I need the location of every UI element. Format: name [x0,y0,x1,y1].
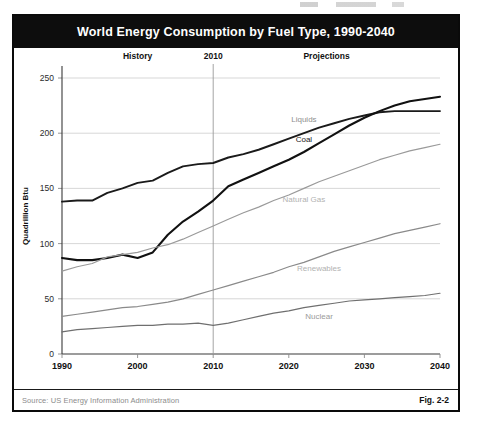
x-tick-label: 2030 [354,361,374,371]
series-label-renewables: Renewables [297,264,341,273]
y-tick-label: 150 [40,183,54,193]
figure-number: Fig. 2-2 [419,395,449,405]
y-axis-title: Quadrillion Btu [21,187,30,245]
x-tick-label: 2020 [279,361,299,371]
figure-title-bar: World Energy Consumption by Fuel Type, 1… [14,16,458,48]
series-line-renewables [62,224,440,317]
figure-root: World Energy Consumption by Fuel Type, 1… [0,0,478,428]
series-label-liquids: Liquids [291,115,316,124]
chart-plot-area: 050100150200250199020002010202020302040H… [14,48,458,382]
x-tick-label: 2010 [203,361,223,371]
series-label-natural-gas: Natural Gas [283,195,326,204]
y-tick-label: 100 [40,239,54,249]
series-line-coal [62,97,440,260]
line-chart: 050100150200250199020002010202020302040H… [14,48,458,382]
figure-footer: Source: US Energy Information Administra… [14,389,458,410]
series-label-nuclear: Nuclear [305,312,333,321]
x-tick-label: 2040 [430,361,450,371]
era-label-history: History [123,51,153,61]
source-note: Source: US Energy Information Administra… [22,396,179,405]
figure-frame: World Energy Consumption by Fuel Type, 1… [12,14,460,412]
y-tick-label: 250 [40,73,54,83]
x-tick-label: 2000 [128,361,148,371]
series-label-coal: Coal [296,135,313,144]
era-label-projections: Projections [303,51,350,61]
y-tick-label: 200 [40,128,54,138]
era-label-divider-year: 2010 [204,51,223,61]
series-line-natural-gas [62,144,440,271]
page-title: World Energy Consumption by Fuel Type, 1… [77,25,395,39]
x-tick-label: 1990 [52,361,72,371]
y-tick-label: 0 [49,349,54,359]
y-tick-label: 50 [45,294,55,304]
scan-artifact [300,2,420,7]
